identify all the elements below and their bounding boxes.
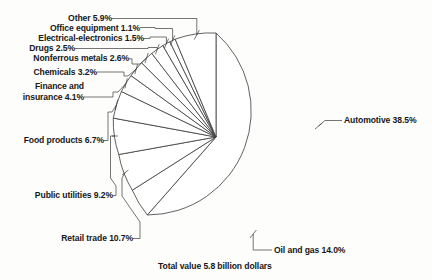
slice-label-office-equipment: Office equipment 1.1% [0, 23, 140, 34]
slice-label-retail-trade: Retail trade 10.7% [0, 233, 133, 244]
chart-caption: Total value 5.8 billion dollars [158, 261, 272, 271]
pie-slices [113, 33, 251, 215]
pie-chart-figure: Other 5.9% Office equipment 1.1% Electri… [0, 0, 432, 280]
slice-label-other: Other 5.9% [0, 13, 112, 24]
leader-electrical-electronics [144, 37, 166, 44]
slice-label-automotive: Automotive 38.5% [344, 115, 416, 126]
leader-chemicals [97, 69, 136, 76]
tick-automotive [315, 123, 322, 129]
slice-label-drugs: Drugs 2.5% [0, 43, 75, 54]
leader-public-utilities [111, 136, 117, 196]
slice-label-electrical-electronics: Electrical-electronics 1.5% [0, 33, 144, 44]
leader-drugs [75, 48, 157, 50]
finance-label-line2: insurance 4.1% [23, 92, 84, 102]
slice-label-nonferrous-metals: Nonferrous metals 2.6% [0, 53, 129, 64]
slice-label-finance-and-insurance: Finance and insurance 4.1% [0, 81, 84, 102]
slice-label-public-utilities: Public utilities 9.2% [0, 190, 113, 201]
leader-oil-and-gas [253, 234, 272, 250]
slice-label-food-products: Food products 6.7% [0, 135, 104, 146]
slice-label-oil-and-gas: Oil and gas 14.0% [274, 245, 345, 256]
slice-label-chemicals: Chemicals 3.2% [0, 67, 97, 78]
finance-label-line1: Finance and [35, 81, 84, 91]
